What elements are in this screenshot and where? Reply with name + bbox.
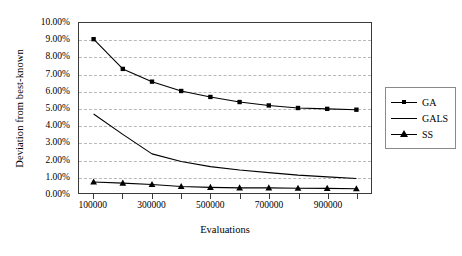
y-axis-tick-label: 7.00% xyxy=(45,69,70,79)
y-axis-tick-label: 4.00% xyxy=(45,120,70,130)
chart-figure: Deviation from best-known 10.00%9.00%8.0… xyxy=(0,0,462,256)
data-point-marker xyxy=(121,67,125,71)
legend-item-ga[interactable]: GA xyxy=(391,94,448,110)
x-axis-tick-labels: 100000300000500000700000900000 xyxy=(0,200,462,216)
legend-label: SS xyxy=(422,129,433,140)
y-axis-tick-label: 10.00% xyxy=(41,17,70,27)
data-point-marker xyxy=(179,89,183,93)
legend-swatch xyxy=(391,128,417,140)
y-axis-tick-label: 5.00% xyxy=(45,103,70,113)
x-axis-tick xyxy=(93,194,94,199)
series-ga xyxy=(91,37,358,112)
x-axis-tick-label: 100000 xyxy=(78,200,107,210)
y-axis-title-text: Deviation from best-known xyxy=(14,49,25,168)
y-axis-tick-label: 1.00% xyxy=(45,172,70,182)
x-axis-tick xyxy=(152,194,153,199)
legend-triangle-marker-icon xyxy=(400,130,408,137)
x-axis-title: Evaluations xyxy=(78,224,372,235)
x-axis-tick xyxy=(357,194,358,199)
legend-swatch xyxy=(391,96,417,108)
y-axis-tick-label: 8.00% xyxy=(45,51,70,61)
y-axis-tick-label: 3.00% xyxy=(45,137,70,147)
series-line xyxy=(94,39,357,110)
data-point-marker xyxy=(208,95,212,99)
legend-item-ss[interactable]: SS xyxy=(391,126,448,142)
x-axis-tick xyxy=(269,194,270,199)
data-point-marker xyxy=(296,106,300,110)
legend-label: GA xyxy=(422,97,436,108)
x-axis-tick-label: 300000 xyxy=(137,200,166,210)
series-canvas xyxy=(79,23,371,193)
x-axis-tick xyxy=(299,194,300,199)
x-axis-tick xyxy=(210,194,211,199)
data-point-marker xyxy=(237,100,241,104)
x-axis-tick xyxy=(181,194,182,199)
data-point-marker xyxy=(325,107,329,111)
y-axis-tick-label: 9.00% xyxy=(45,34,70,44)
legend-line xyxy=(391,118,417,119)
data-point-marker xyxy=(91,37,95,41)
y-axis-tick-label: 0.00% xyxy=(45,189,70,199)
data-point-marker xyxy=(90,178,97,184)
x-axis-tick-label: 700000 xyxy=(255,200,284,210)
x-axis-tick-label: 500000 xyxy=(196,200,225,210)
legend: GAGALSSS xyxy=(385,87,456,149)
x-axis-tick-label: 900000 xyxy=(314,200,343,210)
series-ss xyxy=(90,178,360,191)
y-axis-tick-labels: 10.00%9.00%8.00%7.00%6.00%5.00%4.00%3.00… xyxy=(26,22,74,194)
x-axis-tick xyxy=(122,194,123,199)
legend-label: GALS xyxy=(422,113,448,124)
y-axis-tick-label: 6.00% xyxy=(45,86,70,96)
legend-square-marker-icon xyxy=(402,100,406,104)
x-axis-tick xyxy=(328,194,329,199)
x-axis-tick xyxy=(240,194,241,199)
plot-area xyxy=(78,22,372,194)
data-point-marker xyxy=(354,108,358,112)
legend-swatch xyxy=(391,112,417,124)
series-line xyxy=(94,114,357,179)
series-line xyxy=(94,182,357,189)
data-point-marker xyxy=(267,103,271,107)
data-point-marker xyxy=(150,79,154,83)
series-gals xyxy=(94,114,357,179)
y-axis-tick-label: 2.00% xyxy=(45,155,70,165)
legend-item-gals[interactable]: GALS xyxy=(391,110,448,126)
